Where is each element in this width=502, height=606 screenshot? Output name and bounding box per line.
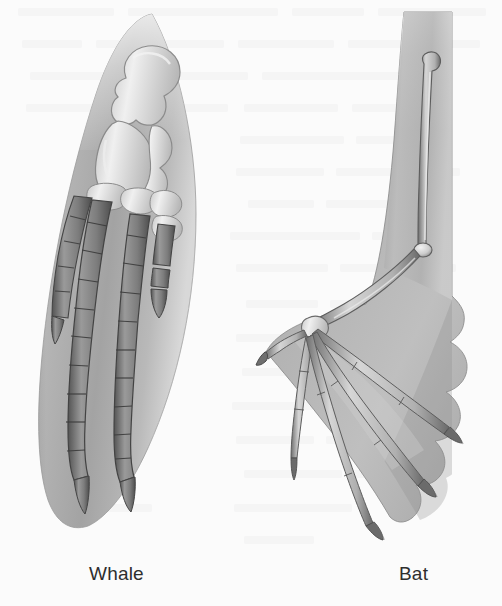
bat-label: Bat [399,563,428,585]
whale-carpal-3 [150,190,182,217]
whale-digit-4-segment-2 [151,268,170,288]
whale-flipper-figure [20,0,220,606]
whale-label: Whale [89,563,144,585]
homologous-limbs-illustration [0,0,502,606]
bat-wing-figure [256,0,502,540]
whale-digit-3-tip [120,477,135,512]
figure-container: Whale Bat [0,0,502,606]
bat-digit-2-tip [291,458,297,480]
bat-thumb-claw [256,352,268,365]
